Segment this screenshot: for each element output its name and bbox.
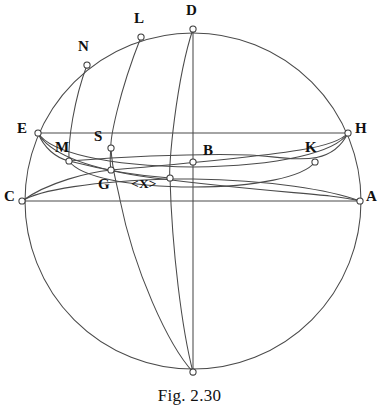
- label-point-H: H: [355, 121, 367, 136]
- vertex-E[interactable]: [35, 130, 41, 136]
- vertex-C[interactable]: [19, 198, 25, 204]
- vertex-G[interactable]: [108, 167, 114, 173]
- vertex-L[interactable]: [138, 34, 144, 40]
- label-point-X: <X>: [131, 177, 157, 191]
- label-point-E: E: [17, 121, 27, 136]
- vertex-bottom-pole[interactable]: [190, 369, 196, 375]
- figure-caption: Fig. 2.30: [0, 386, 379, 406]
- vertex-B[interactable]: [190, 159, 196, 165]
- vertex-A[interactable]: [357, 198, 363, 204]
- label-point-A: A: [366, 189, 377, 204]
- vertex-K[interactable]: [312, 159, 318, 165]
- meridian-arc-L-pole: [111, 37, 193, 372]
- label-point-G: G: [98, 177, 110, 192]
- vertex-X[interactable]: [167, 175, 173, 181]
- label-point-N: N: [78, 39, 89, 54]
- label-point-L: L: [134, 11, 144, 26]
- sphere-diagram: [0, 0, 379, 414]
- meridian-arc-N-M: [69, 65, 87, 161]
- label-point-C: C: [4, 189, 15, 204]
- label-point-S: S: [94, 129, 103, 144]
- vertex-S[interactable]: [108, 145, 114, 151]
- vertex-D[interactable]: [190, 26, 196, 32]
- label-point-M: M: [55, 140, 69, 155]
- vertex-N[interactable]: [84, 62, 90, 68]
- vertex-H[interactable]: [345, 130, 351, 136]
- figure-container: D L N E H M S B K G <X> C A Fig. 2.30: [0, 0, 379, 414]
- vertex-M[interactable]: [66, 158, 72, 164]
- label-point-K: K: [305, 140, 317, 155]
- label-point-D: D: [186, 3, 197, 18]
- label-point-B: B: [203, 143, 213, 158]
